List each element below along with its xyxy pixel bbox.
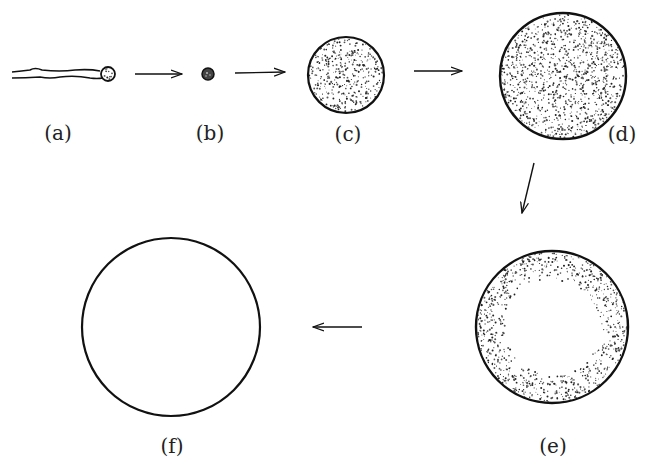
arrow-right-icon [235, 72, 285, 73]
stage-e-ring [476, 251, 628, 403]
stage-c-circle [308, 37, 384, 113]
stage-d-circle [500, 13, 626, 139]
stage-f-circle [82, 238, 260, 416]
stage-b-dot [202, 68, 214, 80]
label-d: (d) [608, 122, 636, 146]
diagram: (a) (b) (c) (d) (e) (f) [0, 0, 648, 476]
label-e: (e) [539, 434, 566, 458]
diagram-canvas [0, 0, 648, 476]
label-b: (b) [196, 121, 224, 145]
arrow-down-icon [522, 163, 534, 213]
label-a: (a) [44, 121, 72, 145]
label-f: (f) [160, 434, 183, 458]
stage-a-tube [12, 67, 115, 81]
label-c: (c) [335, 122, 362, 146]
